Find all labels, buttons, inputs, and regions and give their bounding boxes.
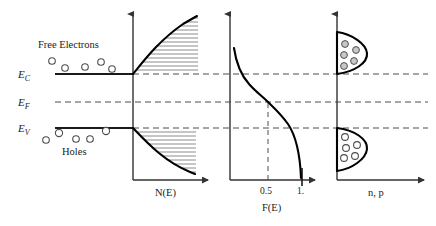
hole-concentration-lobe xyxy=(337,128,367,171)
band-diagram-figure: EC EF EV Free Electrons Holes xyxy=(0,0,436,226)
electron-marker xyxy=(341,63,348,70)
label-Ev: EV xyxy=(17,122,31,137)
figure-canvas: EC EF EV Free Electrons Holes xyxy=(0,0,436,226)
hole-marker xyxy=(102,127,109,134)
hole-lobe-marker xyxy=(354,142,361,149)
free-electrons-label: Free Electrons xyxy=(38,39,99,50)
free-electron-marker xyxy=(82,64,89,71)
hole-lobe-marker xyxy=(342,134,349,141)
fermi-function-panel: 0.5 1. F(E) xyxy=(230,14,315,214)
left-band-edge-region xyxy=(43,58,133,144)
carrier-concentration-panel: n, p xyxy=(337,14,424,198)
energy-level-guides xyxy=(55,74,428,128)
energy-level-labels: EC EF EV xyxy=(17,68,31,137)
fermi-tick-label-half: 0.5 xyxy=(260,186,272,196)
electron-marker xyxy=(341,52,348,59)
free-electron-markers xyxy=(49,58,116,73)
hole-marker xyxy=(55,129,62,136)
hole-marker xyxy=(43,137,50,144)
label-Ec: EC xyxy=(17,68,31,83)
carrier-axis-label: n, p xyxy=(368,187,384,198)
electron-marker xyxy=(342,41,349,48)
free-electron-marker xyxy=(109,66,116,73)
hole-marker xyxy=(73,136,80,143)
electron-marker xyxy=(351,58,358,65)
free-electron-marker xyxy=(98,59,105,66)
free-electron-marker xyxy=(62,65,69,72)
dos-axis-label: N(E) xyxy=(155,187,176,199)
fermi-tick-label-one: 1. xyxy=(297,186,304,196)
hole-lobe-marker xyxy=(352,153,359,160)
hole-marker xyxy=(87,136,94,143)
free-electron-marker xyxy=(49,58,56,65)
valence-band-dos-curve xyxy=(133,128,195,174)
holes-label: Holes xyxy=(62,146,87,157)
density-of-states-panel: N(E) xyxy=(133,14,208,199)
fermi-axis-label: F(E) xyxy=(262,202,282,214)
label-Ef: EF xyxy=(17,96,30,111)
hole-lobe-marker xyxy=(343,145,350,152)
hole-markers xyxy=(43,127,110,143)
hole-lobe-marker xyxy=(341,155,348,162)
conduction-band-dos-curve xyxy=(133,16,197,74)
electron-marker xyxy=(353,47,360,54)
